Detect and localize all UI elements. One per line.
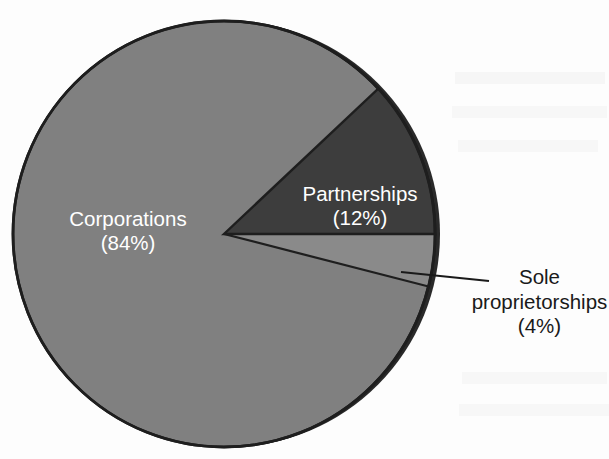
slice-label-sole-proprietorships-name: Sole proprietorships	[470, 265, 609, 314]
slice-label-corporations-name: Corporations	[48, 207, 208, 231]
slice-label-partnerships-name: Partnerships	[276, 182, 444, 206]
slice-label-partnerships-percent: (12%)	[276, 206, 444, 230]
slice-label-corporations-percent: (84%)	[48, 231, 208, 255]
slice-label-sole-proprietorships-percent: (4%)	[470, 314, 609, 339]
slice-label-partnerships: Partnerships (12%)	[276, 182, 444, 230]
pie-chart-figure: Corporations (84%) Partnerships (12%) So…	[0, 0, 609, 459]
slice-label-corporations: Corporations (84%)	[48, 207, 208, 255]
slice-label-sole-proprietorships: Sole proprietorships (4%)	[470, 265, 609, 339]
